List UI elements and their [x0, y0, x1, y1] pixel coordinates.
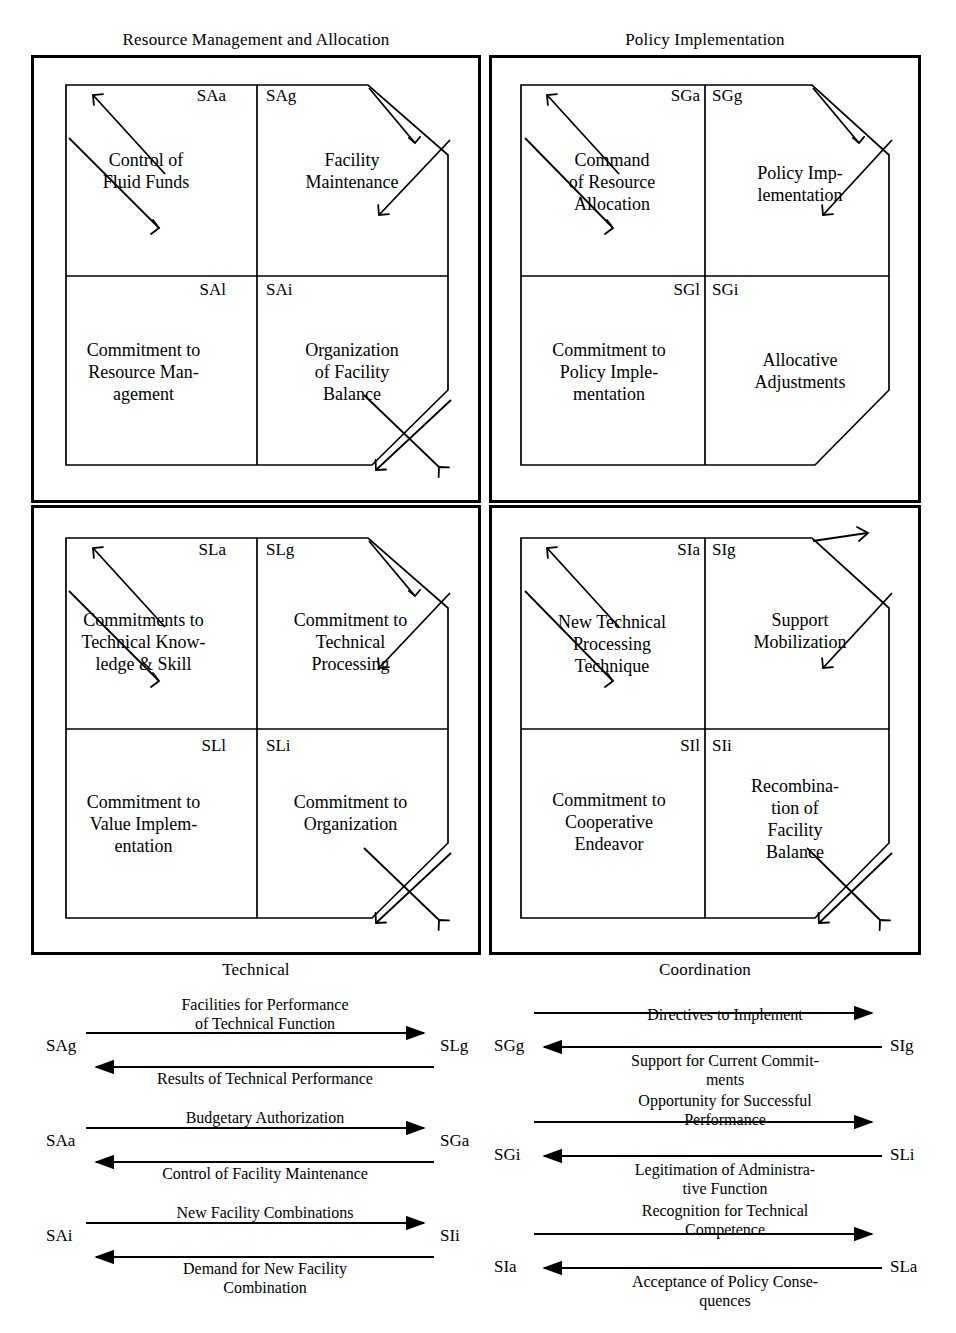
cell-code-SIl: SIl	[580, 736, 700, 756]
quadrant-caption-coordination: Coordination	[489, 960, 921, 980]
exchange-forward-label-2-left: New Facility Combinations	[100, 1204, 430, 1223]
cell-text-SIi: Recombina- tion of Facility Balance	[705, 776, 885, 864]
cell-code-SGa: SGa	[580, 86, 700, 106]
cell-code-SLi: SLi	[266, 736, 366, 756]
cell-text-SIl: Commitment to Cooperative Endeavor	[518, 790, 700, 856]
exchange-forward-label-1-right: Opportunity for Successful Performance	[560, 1092, 890, 1130]
exchange-endpoint-to-0-right: SIg	[890, 1036, 914, 1056]
exchange-backward-label-1-right: Legitimation of Administra- tive Functio…	[560, 1161, 890, 1199]
exchange-forward-label-2-right: Recognition for Technical Competence	[560, 1202, 890, 1240]
cell-code-SAi: SAi	[266, 280, 366, 300]
cell-code-SGl: SGl	[580, 280, 700, 300]
cell-code-SAl: SAl	[126, 280, 226, 300]
cell-code-SIg: SIg	[712, 540, 812, 560]
agil-inner-shape-technical	[31, 505, 481, 955]
cell-text-SLl: Commitment to Value Implem- entation	[56, 792, 231, 858]
exchange-endpoint-to-0-left: SLg	[440, 1036, 468, 1056]
quadrant-caption-technical: Technical	[31, 960, 481, 980]
exchange-endpoint-from-2-left: SAi	[46, 1226, 72, 1246]
cell-text-SAi: Organization of Facility Balance	[262, 340, 442, 406]
exchange-backward-label-2-left: Demand for New Facility Combination	[100, 1260, 430, 1298]
quadrant-caption-resource-management: Resource Management and Allocation	[32, 30, 480, 50]
quadrant-caption-policy-implementation: Policy Implementation	[488, 30, 922, 50]
agil-inner-shape-coordination	[489, 505, 921, 955]
agil-inner-shape-policy-implementation	[489, 55, 921, 503]
exchange-endpoint-from-0-right: SGg	[494, 1036, 524, 1056]
agil-inner-shape-resource-management	[31, 55, 481, 503]
exchange-endpoint-from-0-left: SAg	[46, 1036, 76, 1056]
cell-text-SAg: Facility Maintenance	[262, 150, 442, 194]
cell-code-SLl: SLl	[126, 736, 226, 756]
cell-code-SGi: SGi	[712, 280, 812, 300]
cell-code-SAg: SAg	[266, 86, 366, 106]
exchange-backward-label-1-left: Control of Facility Maintenance	[100, 1165, 430, 1184]
cell-code-SIi: SIi	[712, 736, 812, 756]
exchange-backward-label-2-right: Acceptance of Policy Conse- quences	[560, 1273, 890, 1311]
cell-code-SIa: SIa	[580, 540, 700, 560]
exchange-forward-label-0-right: Directives to Implement	[560, 1006, 890, 1025]
exchange-endpoint-to-1-left: SGa	[440, 1131, 469, 1151]
exchange-endpoint-from-1-left: SAa	[46, 1131, 75, 1151]
exchange-forward-label-0-left: Facilities for Performance of Technical …	[100, 996, 430, 1034]
cell-text-SLa: Commitments to Technical Know- ledge & S…	[56, 610, 231, 676]
cell-text-SGa: Command of Resource Allocation	[524, 150, 700, 216]
exchange-endpoint-to-2-left: SIi	[440, 1226, 460, 1246]
cell-code-SLg: SLg	[266, 540, 366, 560]
cell-code-SLa: SLa	[126, 540, 226, 560]
exchange-endpoint-from-1-right: SGi	[494, 1145, 520, 1165]
cell-text-SGg: Policy Imp- lementation	[710, 163, 890, 207]
cell-text-SIg: Support Mobilization	[710, 610, 890, 654]
cell-text-SGi: Allocative Adjustments	[710, 350, 890, 394]
exchange-backward-label-0-left: Results of Technical Performance	[100, 1070, 430, 1089]
exchange-forward-label-1-left: Budgetary Authorization	[100, 1109, 430, 1128]
cell-text-SLg: Commitment to Technical Processing	[258, 610, 443, 676]
cell-text-SIa: New Technical Processing Technique	[524, 612, 700, 678]
exchange-endpoint-to-1-right: SLi	[890, 1145, 915, 1165]
cell-text-SAl: Commitment to Resource Man- agement	[56, 340, 231, 406]
exchange-endpoint-from-2-right: SIa	[494, 1257, 517, 1277]
cell-code-SGg: SGg	[712, 86, 812, 106]
cell-text-SAa: Control of Fluid Funds	[66, 150, 226, 194]
cell-text-SGl: Commitment to Policy Imple- mentation	[518, 340, 700, 406]
cell-code-SAa: SAa	[126, 86, 226, 106]
exchange-backward-label-0-right: Support for Current Commit- ments	[560, 1052, 890, 1090]
cell-text-SLi: Commitment to Organization	[258, 792, 443, 836]
exchange-endpoint-to-2-right: SLa	[890, 1257, 917, 1277]
